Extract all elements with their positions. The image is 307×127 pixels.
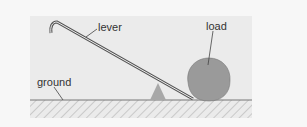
lever-diagram: [0, 0, 307, 127]
lever-leader: [86, 29, 97, 37]
ground-leader: [54, 87, 63, 100]
lever-label: lever: [98, 22, 122, 33]
ground-label: ground: [37, 77, 71, 88]
load-label: load: [206, 21, 227, 32]
ground-hatching: [30, 100, 252, 118]
fulcrum-icon: [150, 83, 166, 100]
load-icon: [188, 58, 230, 101]
